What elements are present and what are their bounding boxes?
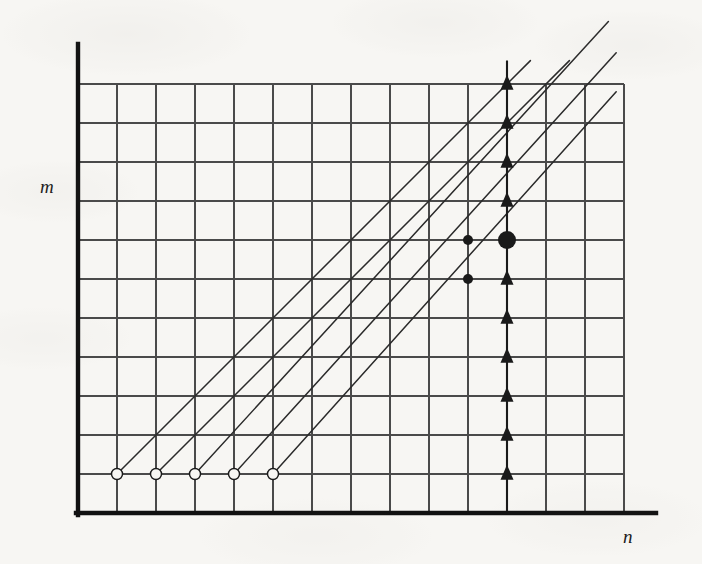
open-circle-marker <box>229 469 240 480</box>
x-axis-label: n <box>623 526 633 547</box>
figure-root: m n <box>0 0 702 564</box>
open-circle-marker <box>268 469 279 480</box>
lattice-scatter-figure: m n <box>0 0 702 564</box>
open-circle-marker <box>190 469 201 480</box>
large-filled-dot-marker <box>498 231 516 249</box>
open-circle-marker <box>112 469 123 480</box>
filled-dot-marker <box>463 235 473 245</box>
y-axis-label: m <box>40 176 54 197</box>
open-circle-marker <box>151 469 162 480</box>
filled-dot-marker <box>463 274 473 284</box>
